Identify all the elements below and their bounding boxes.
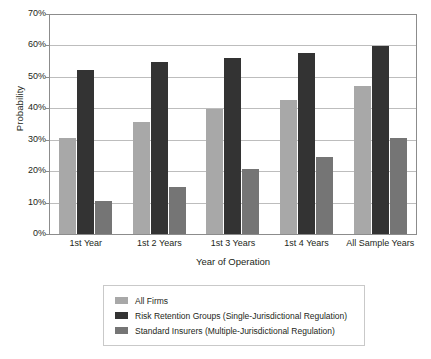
bar (390, 138, 407, 234)
bar (316, 157, 333, 234)
bar-group (196, 14, 270, 234)
x-axis-tick-label: 1st 3 Years (196, 238, 270, 248)
bar (280, 100, 297, 235)
legend-item-label: All Firms (135, 296, 168, 306)
bar (354, 86, 371, 234)
bar-groups (49, 14, 417, 234)
y-axis-tick-label: 50% (0, 71, 46, 81)
bar (133, 122, 150, 235)
bar (206, 109, 223, 234)
bar (224, 58, 241, 234)
bar (242, 169, 259, 234)
bar (77, 70, 94, 234)
x-axis-tick-label: 1st 2 Years (123, 238, 197, 248)
legend-item-label: Risk Retention Groups (Single-Jurisdicti… (135, 311, 347, 321)
y-axis-tick-mark (45, 234, 49, 235)
x-axis-tick-label: 1st 4 Years (270, 238, 344, 248)
chart-legend: All FirmsRisk Retention Groups (Single-J… (103, 285, 365, 346)
bar (372, 46, 389, 234)
x-axis-tick-label: 1st Year (49, 238, 123, 248)
x-axis-tick-label: All Sample Years (343, 238, 417, 248)
bar (59, 138, 76, 234)
y-axis-tick-label: 60% (0, 39, 46, 49)
bar-group (343, 14, 417, 234)
legend-item: All Firms (115, 293, 355, 308)
bar-group (49, 14, 123, 234)
bar (95, 201, 112, 234)
y-axis-tick-label: 40% (0, 102, 46, 112)
bar-group (123, 14, 197, 234)
bar-group (270, 14, 344, 234)
y-axis-tick-label: 0% (0, 228, 46, 238)
y-axis-tick-label: 30% (0, 134, 46, 144)
legend-item: Standard Insurers (Multiple-Jurisdiction… (115, 323, 355, 338)
y-axis-tick-label: 10% (0, 197, 46, 207)
y-axis-tick-label: 20% (0, 165, 46, 175)
x-axis-ticks: 1st Year1st 2 Years1st 3 Years1st 4 Year… (49, 238, 417, 248)
bar (151, 62, 168, 234)
y-axis-tick-label: 70% (0, 8, 46, 18)
legend-item: Risk Retention Groups (Single-Jurisdicti… (115, 308, 355, 323)
legend-swatch-icon (115, 312, 128, 319)
legend-swatch-icon (115, 297, 128, 304)
bar-chart-figure: Probability 0%10%20%30%40%50%60%70% 1st … (0, 0, 431, 359)
bar (169, 187, 186, 234)
x-axis-title: Year of Operation (49, 256, 417, 267)
bar (298, 53, 315, 234)
legend-item-label: Standard Insurers (Multiple-Jurisdiction… (135, 326, 335, 336)
legend-swatch-icon (115, 327, 128, 334)
